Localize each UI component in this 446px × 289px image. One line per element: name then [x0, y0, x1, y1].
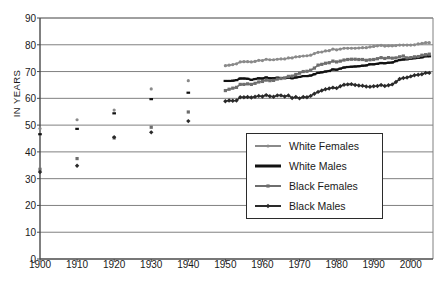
data-point — [223, 99, 227, 103]
data-point — [302, 70, 305, 73]
data-point — [231, 63, 234, 66]
data-point — [413, 55, 416, 58]
data-point — [268, 58, 271, 61]
y-tick-label: 40 — [10, 146, 36, 157]
data-point — [402, 54, 405, 57]
data-point — [224, 80, 228, 82]
data-point — [328, 61, 331, 64]
data-point — [149, 98, 153, 100]
data-point — [405, 56, 408, 59]
x-tick-label: 1930 — [140, 259, 162, 270]
y-tick-label: 90 — [10, 13, 36, 24]
data-point — [361, 46, 364, 49]
data-point — [261, 77, 265, 79]
data-point — [309, 74, 313, 76]
x-tick-label: 1960 — [251, 259, 273, 270]
data-point — [412, 73, 416, 77]
data-point — [327, 86, 331, 90]
data-point — [327, 70, 331, 72]
legend-swatch-icon — [254, 180, 282, 192]
data-point — [405, 75, 409, 79]
legend-item-black-males[interactable]: Black Males — [247, 196, 382, 216]
data-point — [409, 43, 412, 46]
data-point — [383, 62, 387, 64]
legend-key-icon — [254, 160, 282, 172]
data-point — [250, 83, 253, 86]
data-point — [231, 87, 234, 90]
data-point — [424, 41, 427, 44]
data-point — [379, 56, 382, 59]
data-point — [242, 77, 246, 79]
data-point — [346, 58, 349, 61]
data-point — [409, 56, 412, 59]
data-point — [250, 79, 254, 81]
data-point — [335, 60, 338, 63]
data-point — [394, 44, 397, 47]
data-point — [379, 62, 383, 64]
x-tick-label: 1990 — [363, 259, 385, 270]
data-point — [424, 53, 427, 56]
data-point — [235, 62, 238, 65]
data-point — [305, 70, 308, 73]
data-point — [257, 59, 260, 62]
data-point — [265, 79, 268, 82]
data-point — [331, 85, 335, 89]
data-point — [354, 47, 357, 50]
data-point — [287, 75, 290, 78]
data-point — [246, 82, 249, 85]
data-point — [331, 60, 334, 63]
data-point — [387, 62, 391, 64]
data-point — [357, 83, 361, 87]
data-point — [364, 84, 368, 88]
data-point — [187, 79, 190, 82]
data-point — [239, 60, 242, 63]
data-point — [150, 87, 153, 90]
data-point — [309, 69, 312, 72]
data-point — [305, 54, 308, 57]
data-point — [365, 46, 368, 49]
data-point — [227, 80, 231, 82]
data-point — [372, 45, 375, 48]
data-point — [320, 50, 323, 53]
data-point — [342, 47, 345, 50]
data-point — [320, 63, 323, 66]
legend-item-black-females[interactable]: Black Females — [247, 176, 382, 196]
data-point — [38, 127, 41, 130]
data-point — [298, 72, 301, 75]
data-point — [235, 86, 238, 89]
data-point — [279, 77, 282, 80]
legend-item-white-females[interactable]: White Females — [247, 136, 382, 156]
chart-legend: White FemalesWhite MalesBlack FemalesBla… — [246, 133, 383, 219]
data-point — [416, 73, 420, 77]
data-point — [376, 57, 379, 60]
data-point — [298, 55, 301, 58]
data-point — [346, 66, 350, 68]
data-point — [379, 83, 383, 87]
y-axis-ticks: 0102030405060708090 — [6, 0, 36, 289]
data-point — [398, 59, 402, 61]
legend-swatch-icon — [254, 160, 282, 172]
data-point — [249, 95, 253, 99]
data-point — [291, 56, 294, 59]
data-point — [242, 83, 245, 86]
data-point — [335, 69, 339, 71]
data-point — [187, 92, 191, 94]
data-point — [268, 77, 272, 79]
data-point — [253, 78, 257, 80]
data-point — [231, 80, 235, 82]
data-point — [113, 109, 116, 112]
data-point — [291, 75, 294, 78]
data-point — [266, 184, 269, 187]
data-point — [372, 63, 376, 65]
data-point — [266, 144, 269, 147]
data-point — [231, 99, 235, 103]
data-point — [368, 85, 372, 89]
data-point — [301, 75, 305, 77]
data-point — [238, 77, 242, 79]
data-point — [227, 88, 230, 91]
data-point — [368, 58, 371, 61]
data-point — [316, 51, 319, 54]
data-point — [298, 76, 302, 78]
legend-item-white-males[interactable]: White Males — [247, 156, 382, 176]
legend-key-icon — [254, 140, 282, 152]
